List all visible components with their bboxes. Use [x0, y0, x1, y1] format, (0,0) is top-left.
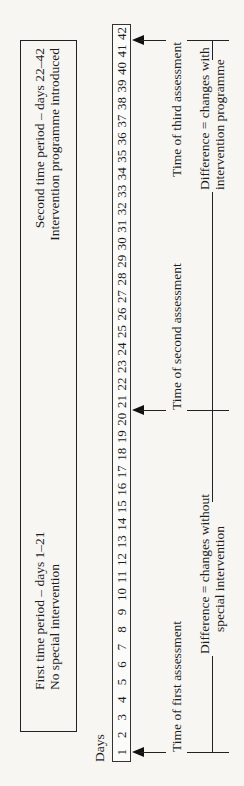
day-cell: 35: [113, 147, 130, 165]
third-assessment-leader: [187, 40, 229, 41]
day-cell: 2: [113, 726, 130, 744]
day-cell: 19: [113, 428, 130, 446]
day-cell: 5: [113, 673, 130, 691]
day-cell: 25: [113, 323, 130, 341]
day-cell: 41: [113, 42, 130, 60]
day-cell: 12: [113, 551, 130, 569]
day-cell: 30: [113, 235, 130, 253]
day-cell: 26: [113, 305, 130, 323]
difference-1-line2: special intervention: [212, 504, 227, 654]
first-period-subtitle: No special intervention: [47, 564, 62, 690]
day-cell: 7: [113, 638, 130, 656]
days-label: Days: [92, 734, 108, 762]
day-cell: 22: [113, 375, 130, 393]
arrow-shaft: [140, 752, 166, 753]
day-strip: 1 2 3 4 5 6 7 8 9 10 11 12 13 14 15 16 1…: [112, 24, 131, 762]
second-period-title: Second time period – days 22–42: [32, 48, 47, 238]
day-cell: 20: [113, 410, 130, 428]
difference-2-bracket-left: [212, 192, 213, 410]
day-cell: 34: [113, 165, 130, 183]
day-cell: 11: [113, 568, 130, 586]
day-cell: 13: [113, 533, 130, 551]
arrow-shaft: [140, 410, 166, 411]
second-assessment-label: Time of second assessment: [169, 263, 184, 410]
day-cell: 15: [113, 498, 130, 516]
second-assessment-leader: [187, 410, 229, 411]
day-cell: 37: [113, 112, 130, 130]
day-cell: 42: [113, 25, 130, 43]
day-cell: 32: [113, 200, 130, 218]
day-cell: 18: [113, 445, 130, 463]
day-cell: 24: [113, 340, 130, 358]
first-assessment-label: Time of first assessment: [169, 621, 184, 752]
day-cell: 31: [113, 218, 130, 236]
day-cell: 38: [113, 95, 130, 113]
first-period-title: First time period – days 1–21: [32, 531, 47, 690]
day-cell: 17: [113, 463, 130, 481]
day-cell: 27: [113, 288, 130, 306]
arrow-shaft: [140, 40, 166, 41]
timeline-diagram: First time period – days 1–21 No special…: [0, 0, 244, 786]
difference-2-line2: intervention programme: [212, 60, 227, 190]
first-assessment-leader: [187, 752, 229, 753]
second-period-subtitle: Intervention programme introduced: [47, 48, 62, 278]
day-cell: 4: [113, 691, 130, 709]
difference-2-bracket-right: [212, 40, 213, 60]
difference-2-line1: Difference = changes with: [197, 60, 212, 190]
difference-1-line1: Difference = changes without: [197, 504, 212, 654]
day-cell: 1: [113, 743, 130, 761]
day-cell: 8: [113, 621, 130, 639]
day-cell: 23: [113, 358, 130, 376]
day-cell: 29: [113, 253, 130, 271]
third-assessment-label: Time of third assessment: [169, 42, 184, 198]
day-cell: 10: [113, 586, 130, 604]
day-cell: 14: [113, 516, 130, 534]
difference-1-bracket-right: [212, 410, 213, 502]
day-cell: 33: [113, 182, 130, 200]
day-cell: 3: [113, 708, 130, 726]
day-cell: 9: [113, 603, 130, 621]
day-cell: 16: [113, 481, 130, 499]
difference-1-bracket-left: [212, 656, 213, 752]
day-cell: 28: [113, 270, 130, 288]
day-cell: 36: [113, 130, 130, 148]
day-cell: 39: [113, 77, 130, 95]
day-cell: 40: [113, 60, 130, 78]
day-cell: 21: [113, 393, 130, 411]
day-cell: 6: [113, 656, 130, 674]
